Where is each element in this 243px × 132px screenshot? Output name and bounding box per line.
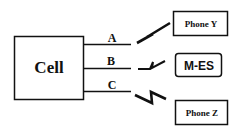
wireless-link-c-icon [135, 92, 166, 103]
mes-label: M-ES [176, 54, 222, 77]
wireless-link-a-icon [137, 23, 170, 43]
phone-z-label: Phone Z [176, 101, 228, 125]
phone-y-label: Phone Y [174, 12, 228, 36]
wireless-link-b-icon [138, 61, 165, 69]
link-c-label: C [104, 79, 120, 91]
link-b-label: B [103, 55, 119, 67]
cell-label: Cell [14, 36, 84, 100]
link-a-label: A [104, 32, 120, 44]
